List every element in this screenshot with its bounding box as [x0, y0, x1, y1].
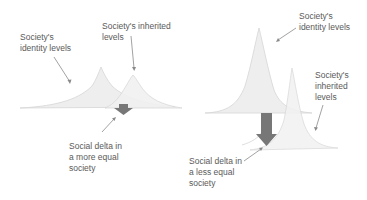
left-identity-label: Society's identity levels — [20, 32, 71, 54]
left-delta-pointer — [102, 119, 114, 132]
right-inherited-label: Society's inherited levels — [315, 70, 349, 103]
right-identity-label: Society's identity levels — [299, 11, 350, 33]
arrowhead-icon — [314, 127, 318, 131]
arrowhead-icon — [68, 80, 72, 85]
right-identity-pointer — [278, 28, 296, 40]
left-delta-label: Social delta in a more equal society — [69, 141, 122, 174]
right-delta-label: Social delta in a less equal society — [189, 156, 242, 189]
arrowhead-icon — [132, 67, 136, 71]
right-baseline-curve — [242, 132, 262, 145]
right-delta-pointer — [244, 149, 261, 161]
left-inherited-label: Society's inherited levels — [102, 21, 171, 43]
left-identity-pointer — [54, 57, 70, 82]
right-inherited-pointer — [316, 105, 323, 128]
